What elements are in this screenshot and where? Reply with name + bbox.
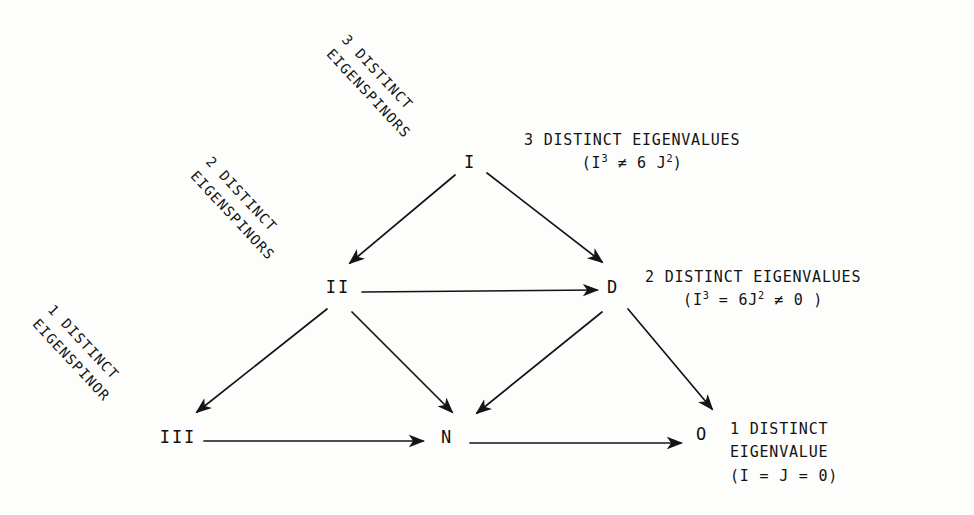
eigenvalue-line-1: 1 DISTINCT [730, 418, 838, 441]
edge-D-to-O [628, 309, 712, 409]
formula-suffix: ) [673, 154, 683, 172]
edge-D-to-N [477, 312, 602, 413]
node-II[interactable]: II [326, 277, 350, 297]
node-III[interactable]: III [160, 427, 197, 447]
formula-mid: ≠ 6 J [608, 154, 667, 172]
formula-prefix: (I [582, 154, 602, 172]
eigenvalue-formula: (I3 ≠ 6 J2) [524, 152, 740, 175]
edge-II-to-D [362, 290, 597, 292]
eigenvalue-heading: 2 DISTINCT EIGENVALUES [645, 267, 861, 289]
edge-II-to-N [352, 312, 452, 412]
formula-prefix: (I [683, 291, 703, 309]
label-one-distinct-eigenspinor: 1 DISTINCT EIGENSPINOR [27, 300, 130, 406]
label-two-distinct-eigenvalues: 2 DISTINCT EIGENVALUES (I3 = 6J2 ≠ 0 ) [645, 267, 861, 312]
label-three-distinct-eigenvalues: 3 DISTINCT EIGENVALUES (I3 ≠ 6 J2) [524, 130, 740, 175]
label-two-distinct-eigenspinors: 2 DISTINCT EIGENSPINORS [185, 152, 295, 265]
node-N[interactable]: N [441, 427, 453, 447]
edge-I-to-D [487, 173, 602, 262]
eigenvalue-heading: 3 DISTINCT EIGENVALUES [524, 130, 740, 152]
node-I[interactable]: I [464, 152, 476, 172]
formula-suffix: ≠ 0 ) [764, 291, 823, 309]
label-three-distinct-eigenspinors: 3 DISTINCT EIGENSPINORS [321, 30, 431, 143]
node-O[interactable]: O [696, 424, 708, 444]
eigenvalue-line-2: EIGENVALUE [730, 441, 838, 464]
eigenvalue-formula: (I3 = 6J2 ≠ 0 ) [645, 289, 861, 312]
edge-II-to-III [197, 309, 327, 412]
formula-mid: = 6J [709, 291, 758, 309]
node-D[interactable]: D [607, 277, 619, 297]
edge-I-to-II [350, 175, 455, 263]
eigenvalue-line-3: (I = J = 0) [730, 465, 838, 488]
label-one-distinct-eigenvalue: 1 DISTINCT EIGENVALUE (I = J = 0) [730, 418, 838, 488]
diagram-canvas: IIIDIIINO 3 DISTINCT EIGENSPINORS 2 DIST… [0, 0, 974, 515]
